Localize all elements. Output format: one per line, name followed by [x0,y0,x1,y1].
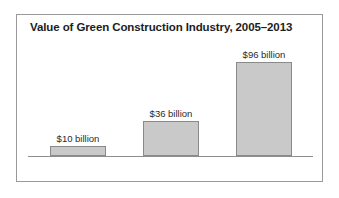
bar-2009[interactable] [143,121,199,156]
bar-value-label-2013: $96 billion [236,49,292,60]
bar-2005[interactable] [50,146,106,156]
bar-column-2009: $36 billion 2009 [133,40,209,156]
bar-value-label-2009: $36 billion [143,108,199,119]
bar-2013[interactable] [236,62,292,156]
bar-slot-2009: $36 billion [143,40,199,156]
bar-column-2005: $10 billion 2005 [40,40,116,156]
bar-column-2013: $96 billion 2013 [226,40,302,156]
x-axis-baseline [28,156,313,157]
bar-value-label-2005: $10 billion [50,133,106,144]
bar-slot-2005: $10 billion [50,40,106,156]
chart-title: Value of Green Construction Industry, 20… [30,21,292,33]
chart-figure: Value of Green Construction Industry, 20… [0,0,339,198]
bar-slot-2013: $96 billion [236,40,292,156]
